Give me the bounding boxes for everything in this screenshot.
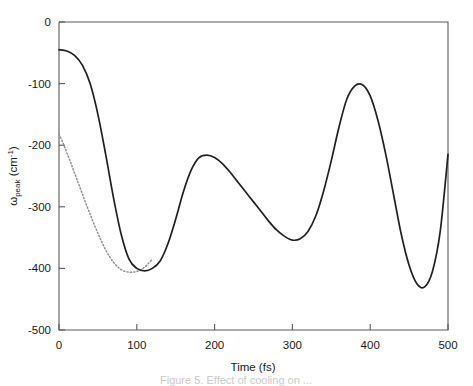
svg-text:ωpeak (cm-1): ωpeak (cm-1) <box>6 146 22 206</box>
figure-container: 0 -100 -200 -300 -400 -500 0 100 200 300… <box>0 0 473 386</box>
y-axis-ticks <box>59 22 65 330</box>
x-axis-title: Time (fs) <box>231 361 276 373</box>
y-axis-title-unit-open: (cm <box>7 157 19 179</box>
series-solid-curve <box>59 50 448 288</box>
y-tick-label-minus-100: -100 <box>28 78 51 90</box>
x-tick-label-0: 0 <box>56 339 62 351</box>
figure-caption: Figure 5. Effect of cooling on ... <box>160 374 312 386</box>
x-tick-label-400: 400 <box>361 339 380 351</box>
y-tick-label-minus-300: -300 <box>28 201 51 213</box>
y-tick-label-minus-200: -200 <box>28 139 51 151</box>
x-axis-ticks <box>59 324 448 330</box>
x-tick-label-100: 100 <box>127 339 146 351</box>
chart-canvas: 0 -100 -200 -300 -400 -500 0 100 200 300… <box>0 0 473 386</box>
y-axis-title-unit-close: ) <box>7 146 19 150</box>
y-axis-title-subscript: peak <box>13 179 22 197</box>
y-tick-label-minus-400: -400 <box>28 262 51 274</box>
x-tick-label-200: 200 <box>205 339 224 351</box>
data-series-group <box>59 50 448 288</box>
y-axis-title-symbol: ω <box>7 197 19 206</box>
x-tick-label-500: 500 <box>438 339 457 351</box>
y-axis-tick-labels: 0 -100 -200 -300 -400 -500 <box>28 16 51 336</box>
x-axis-tick-labels: 0 100 200 300 400 500 <box>56 339 458 351</box>
y-axis-title: ωpeak (cm-1) <box>6 146 22 206</box>
x-tick-label-300: 300 <box>283 339 302 351</box>
y-tick-label-minus-500: -500 <box>28 324 51 336</box>
y-tick-label-0: 0 <box>45 16 51 28</box>
